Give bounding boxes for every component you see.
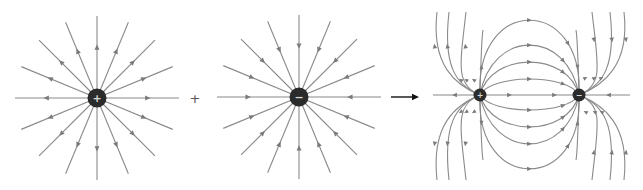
negative-charge-field-panel: − xyxy=(217,15,381,179)
field-line xyxy=(480,95,579,144)
field-superposition-diagram: + + − +− xyxy=(0,0,643,190)
field-arrow-icon xyxy=(527,77,532,81)
field-arrow-icon xyxy=(576,121,580,125)
field-arrow-icon xyxy=(576,65,580,69)
charge-sign-label: + xyxy=(477,91,484,100)
field-line xyxy=(447,12,480,95)
field-arrow-icon xyxy=(472,109,477,113)
field-arrow-icon xyxy=(43,96,48,101)
charge-sign-label: − xyxy=(576,91,583,100)
field-line xyxy=(461,12,480,95)
field-line xyxy=(579,95,612,180)
field-line xyxy=(579,12,612,95)
field-arrow-icon xyxy=(452,93,457,97)
field-arrow-icon xyxy=(560,69,565,74)
field-arrow-icon xyxy=(433,141,437,146)
field-arrow-icon xyxy=(95,146,100,151)
plus-operator: + xyxy=(190,91,201,106)
field-line xyxy=(299,97,357,155)
field-arrow-icon xyxy=(245,95,250,100)
arrow-head xyxy=(412,94,419,100)
positive-charge: + xyxy=(88,89,107,108)
field-arrow-icon xyxy=(464,44,468,49)
charge-sign-label: + xyxy=(92,92,101,105)
field-line xyxy=(299,39,357,97)
field-arrow-icon xyxy=(464,141,468,146)
field-arrow-icon xyxy=(527,60,532,64)
field-arrow-icon xyxy=(606,93,611,97)
field-arrow-icon xyxy=(583,77,588,81)
negative-charge: − xyxy=(290,88,309,107)
field-line xyxy=(39,98,97,156)
field-arrow-icon xyxy=(480,121,484,125)
field-line xyxy=(480,45,579,95)
field-line xyxy=(436,12,480,95)
field-line xyxy=(39,40,97,98)
field-arrow-icon xyxy=(297,43,302,48)
field-line xyxy=(97,98,155,156)
dipole-positive-charge: + xyxy=(474,89,487,102)
field-arrow-icon xyxy=(472,79,477,83)
field-arrow-icon xyxy=(600,111,605,115)
field-arrow-icon xyxy=(584,111,589,115)
charge-sign-label: − xyxy=(294,91,303,104)
field-line xyxy=(480,95,579,110)
field-arrow-icon xyxy=(145,96,150,101)
field-line xyxy=(480,95,579,169)
field-arrow-icon xyxy=(527,125,532,129)
field-arrow-icon xyxy=(433,44,437,49)
field-line xyxy=(241,97,299,155)
field-arrow-icon xyxy=(560,104,565,108)
field-arrow-icon xyxy=(480,65,484,69)
field-line xyxy=(447,95,480,180)
field-arrow-icon xyxy=(527,18,532,22)
field-line xyxy=(461,95,480,180)
field-line xyxy=(579,95,625,180)
field-arrow-icon xyxy=(297,145,302,150)
field-line xyxy=(480,79,579,95)
field-arrow-icon xyxy=(560,115,565,120)
field-arrow-icon xyxy=(95,44,100,49)
field-line xyxy=(579,95,597,180)
dipole-field-panel: +− xyxy=(433,12,630,180)
field-arrow-icon xyxy=(347,95,352,100)
field-line xyxy=(579,12,625,95)
field-arrow-icon xyxy=(527,108,532,112)
field-arrow-icon xyxy=(552,93,557,97)
field-line xyxy=(436,95,480,180)
positive-charge-field-panel: + xyxy=(15,16,179,180)
field-arrow-icon xyxy=(507,93,512,97)
field-arrow-icon xyxy=(527,167,532,171)
field-arrow-icon xyxy=(527,43,532,47)
field-arrow-icon xyxy=(560,81,565,85)
field-line xyxy=(97,40,155,98)
field-line xyxy=(579,12,597,95)
yields-arrow-icon xyxy=(391,94,419,100)
field-arrow-icon xyxy=(464,109,469,113)
plus-operator-symbol: + xyxy=(190,91,201,106)
field-line xyxy=(241,39,299,97)
dipole-negative-charge: − xyxy=(573,89,586,102)
field-arrow-icon xyxy=(527,142,532,146)
diagram-canvas: + + − +− xyxy=(0,0,643,190)
